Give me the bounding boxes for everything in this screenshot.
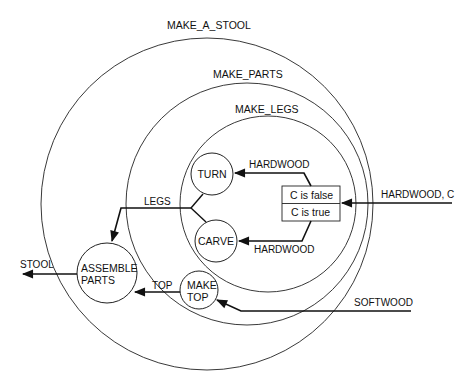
node-turn-label: TURN — [197, 168, 226, 180]
flow-turn-merge — [191, 194, 203, 208]
node-make-top-label-line1: MAKE — [187, 279, 217, 291]
flow-hardwood-to-turn — [235, 173, 311, 186]
node-make-top-label-line2: TOP — [187, 291, 208, 303]
scope-label-make-parts: MAKE_PARTS — [213, 68, 283, 80]
node-carve-label: CARVE — [198, 235, 234, 247]
flow-label-hardwood-bottom: HARDWOOD — [254, 244, 315, 255]
flow-label-hardwood-c: HARDWOOD, C — [381, 189, 454, 200]
flow-label-hardwood-top: HARDWOOD — [249, 159, 310, 170]
flow-hardwood-to-carve — [239, 221, 311, 241]
node-assemble-label-line2: PARTS — [81, 274, 115, 286]
flow-legs — [112, 208, 191, 241]
flow-label-top: TOP — [152, 280, 173, 291]
node-carve[interactable]: CARVE — [195, 220, 237, 262]
node-assemble-parts[interactable]: ASSEMBLE PARTS — [77, 243, 138, 303]
node-assemble-label-line1: ASSEMBLE — [81, 262, 138, 274]
decision-row-c-true: C is true — [291, 206, 330, 218]
decision-row-c-false: C is false — [290, 189, 333, 201]
scope-label-make-legs: MAKE_LEGS — [235, 103, 299, 115]
flow-label-stool: STOOL — [20, 259, 54, 270]
flow-label-softwood: SOFTWOOD — [354, 297, 413, 308]
decision-table[interactable]: C is false C is true — [282, 186, 340, 221]
scope-label-make-a-stool: MAKE_A_STOOL — [167, 19, 251, 31]
flow-carve-merge — [191, 208, 206, 222]
diagram-canvas: MAKE_A_STOOL MAKE_PARTS MAKE_LEGS TURN C… — [0, 0, 470, 392]
node-make-top[interactable]: MAKE TOP — [180, 271, 218, 309]
node-turn[interactable]: TURN — [191, 153, 233, 195]
flow-label-legs: LEGS — [144, 196, 171, 207]
